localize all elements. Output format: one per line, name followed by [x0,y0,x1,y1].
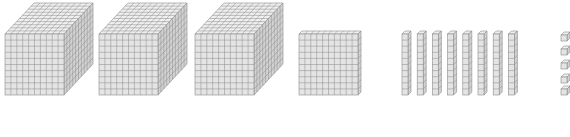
unit-cube [561,86,570,95]
tens-group [400,0,530,100]
ten-rod [417,31,426,95]
ten-rod [493,31,502,95]
ten-rod [448,31,457,95]
ten-rod [478,31,487,95]
unit-cube [561,32,570,41]
ten-rod [508,31,517,95]
thousand-cube [195,3,283,95]
unit-cube [561,46,570,55]
thousand-cubes-svg [0,0,295,100]
unit-cube [561,60,570,69]
thousand-cube [99,3,187,95]
hundreds-group [295,0,375,100]
hundred-flat [299,31,361,95]
thousand-cube [5,3,93,95]
ten-rod [432,31,441,95]
ten-rod [463,31,472,95]
ten-rods-svg [400,0,530,100]
ten-rod [402,31,411,95]
unit-cubes-svg [559,0,570,100]
thousands-group [0,0,295,100]
hundred-flats-svg [295,0,375,100]
ones-group [559,0,570,100]
unit-cube [561,74,570,83]
